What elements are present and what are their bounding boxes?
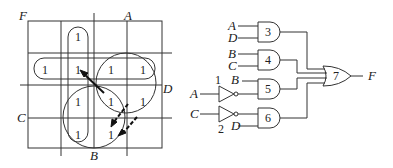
kmap-groupings: [34, 27, 156, 148]
kmap-var-C: C: [17, 110, 26, 125]
kmap-cell-r0c1: 1: [75, 30, 81, 44]
label-gate-6: 6: [265, 111, 271, 125]
label-inverter-2: 2: [218, 122, 224, 136]
kmap-cell-r1c0: 1: [42, 63, 48, 77]
label-g3-input-d: D: [227, 30, 238, 45]
kmap-cell-r1c3: 1: [140, 63, 146, 77]
label-inv2-input-c: C: [190, 106, 199, 121]
group-circle-ad: [96, 53, 156, 113]
kmap-output-label: F: [18, 8, 28, 23]
label-inverter-1: 1: [215, 73, 221, 87]
kmap-cell-r2c1: 1: [75, 95, 81, 109]
kmap-cell-r3c1: 1: [75, 128, 81, 142]
inverter-1: [219, 86, 234, 102]
arrow-dashed-1: [113, 104, 128, 123]
kmap-cell-r3c2: 1: [108, 128, 114, 142]
kmap-cell-r1c2: 1: [108, 63, 114, 77]
diagram-canvas: F A D C B 1 1 1 1 1 1 1 1 1 1: [0, 0, 393, 168]
label-inv1-input-a: A: [189, 86, 198, 101]
kmap-var-A: A: [123, 8, 132, 23]
kmap-cell-r2c3: 1: [140, 95, 146, 109]
arrow-dashed-2-head: [118, 129, 126, 136]
label-g5-input-b: B: [231, 72, 239, 87]
kmap-var-B: B: [90, 148, 98, 163]
label-g6-input-d: D: [230, 118, 241, 133]
label-gate-7: 7: [333, 69, 339, 83]
kmap-var-D: D: [162, 81, 173, 96]
label-gate-5: 5: [265, 82, 271, 96]
label-output-f: F: [367, 68, 377, 83]
label-g4-input-c: C: [228, 58, 237, 73]
kmap-cell-r2c2: 1: [108, 95, 114, 109]
label-gate-3: 3: [265, 25, 271, 39]
label-gate-4: 4: [265, 53, 271, 67]
